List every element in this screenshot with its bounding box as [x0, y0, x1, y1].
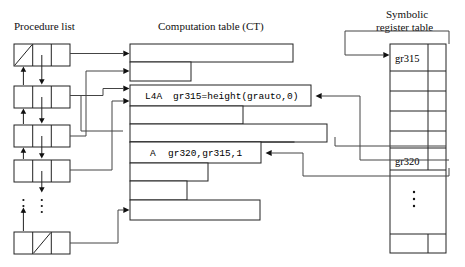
- list-node: [14, 232, 70, 254]
- ct-row-text: gr320,gr315,1: [168, 148, 242, 159]
- diagram-canvas: Procedure list Computation table (CT) Sy…: [0, 0, 465, 267]
- ct-row: [130, 163, 208, 181]
- ct-row-label: L4A: [145, 91, 162, 102]
- procedure-list-nodes: [14, 44, 70, 254]
- ct-row: [130, 62, 191, 81]
- ct-row-text: gr315=height(grauto,0): [173, 91, 298, 102]
- ct-row: [130, 181, 187, 200]
- diagram-svg: L4A gr315=height(grauto,0) A gr320,gr315…: [0, 0, 465, 267]
- procedure-list-ellipsis: [22, 199, 43, 213]
- ct-row: [130, 124, 327, 142]
- symbolic-register-table: gr315 gr320: [390, 44, 446, 253]
- ct-row: [130, 200, 260, 220]
- ct-row: [130, 44, 293, 62]
- connectors-list-to-ct: [70, 51, 130, 243]
- ct-row: [130, 106, 243, 124]
- computation-table: L4A gr315=height(grauto,0) A gr320,gr315…: [130, 44, 327, 220]
- register-cell-value: gr315: [395, 53, 420, 64]
- ct-row-label: A: [150, 148, 156, 159]
- register-cell-value: gr320: [395, 156, 420, 167]
